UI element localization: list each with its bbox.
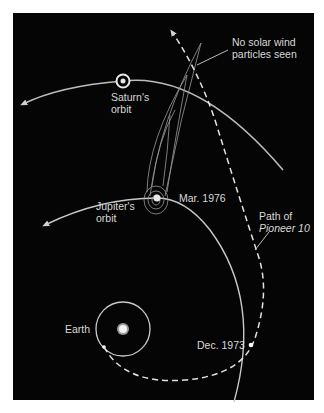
solar-wind-leader [197, 50, 228, 65]
jupiter-icon [154, 195, 161, 202]
earth-text: Earth [65, 323, 90, 335]
solar-system-diagram [0, 0, 324, 413]
jupiter-orbit [45, 198, 244, 402]
saturn-icon [117, 75, 130, 88]
jupiter-label-line1: Jupiter's [96, 200, 135, 212]
saturn-orbit-label: Saturn's orbit [111, 91, 149, 115]
dec-1973-text: Dec. 1973 [197, 339, 245, 351]
mar-1976-text: Mar. 1976 [179, 192, 226, 204]
jupiter-orbit-label: Jupiter's orbit [96, 200, 135, 224]
solar-wind-label-line2: particles seen [232, 48, 297, 60]
sun-icon [117, 323, 129, 335]
solar-wind-label: No solar wind particles seen [232, 36, 297, 60]
path-label-line2: Pioneer 10 [259, 222, 310, 234]
pioneer-path-label: Path of Pioneer 10 [259, 210, 310, 234]
mar-1976-label: Mar. 1976 [179, 192, 226, 204]
saturn-orbit [23, 80, 283, 170]
saturn-label-line2: orbit [111, 103, 149, 115]
dec-1973-label: Dec. 1973 [197, 339, 245, 351]
earth-label: Earth [65, 323, 90, 335]
dec-1973-marker [249, 343, 254, 348]
solar-wind-label-line1: No solar wind [232, 36, 297, 48]
path-leader [255, 232, 269, 250]
saturn-label-line1: Saturn's [111, 91, 149, 103]
jupiter-magnetosphere-tail [144, 43, 201, 214]
jupiter-label-line2: orbit [96, 212, 135, 224]
path-label-line1: Path of [259, 210, 310, 222]
